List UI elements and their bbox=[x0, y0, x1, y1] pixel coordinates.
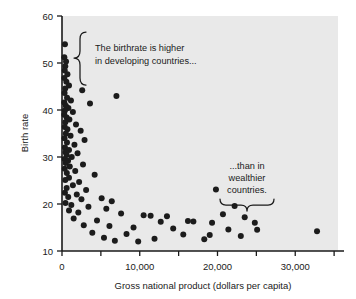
data-point bbox=[209, 220, 215, 226]
data-point bbox=[68, 133, 74, 139]
data-point bbox=[113, 93, 119, 99]
data-point bbox=[68, 202, 74, 208]
data-point bbox=[64, 139, 70, 145]
data-point bbox=[124, 231, 130, 237]
data-point bbox=[190, 218, 196, 224]
x-tick-label: 10,000 bbox=[125, 261, 154, 272]
x-axis-title: Gross national product (dollars per capi… bbox=[115, 280, 292, 291]
data-point bbox=[99, 195, 105, 201]
data-point bbox=[170, 225, 176, 231]
data-point bbox=[73, 122, 79, 128]
data-point bbox=[87, 100, 93, 106]
data-point bbox=[71, 216, 77, 222]
data-point bbox=[185, 218, 191, 224]
data-point bbox=[92, 172, 98, 178]
x-tick-label: 20,000 bbox=[203, 261, 232, 272]
data-point bbox=[82, 137, 88, 143]
data-point bbox=[75, 209, 81, 215]
data-point bbox=[74, 192, 80, 198]
data-point bbox=[71, 142, 77, 148]
data-point bbox=[164, 213, 170, 219]
data-point bbox=[106, 223, 112, 229]
data-point bbox=[62, 177, 68, 183]
y-tick-label: 20 bbox=[42, 199, 53, 210]
data-point bbox=[242, 214, 248, 220]
data-point bbox=[252, 220, 258, 226]
data-point bbox=[85, 204, 91, 210]
annotation-wealthier-line-2: wealthier bbox=[228, 173, 266, 183]
data-point bbox=[220, 211, 226, 217]
data-point bbox=[66, 208, 72, 214]
data-point bbox=[152, 236, 158, 242]
y-axis-ticks: 102030405060 bbox=[42, 11, 62, 257]
data-point bbox=[225, 226, 231, 232]
scatter-chart-figure: 102030405060 010,00020,00030,000 Birth r… bbox=[0, 0, 356, 299]
data-point bbox=[81, 222, 87, 228]
data-point bbox=[63, 200, 69, 206]
data-point bbox=[112, 238, 118, 244]
data-point bbox=[80, 162, 86, 168]
data-point bbox=[254, 227, 260, 233]
data-point bbox=[89, 230, 95, 236]
data-point bbox=[135, 239, 141, 245]
data-point bbox=[158, 219, 164, 225]
data-point bbox=[180, 232, 186, 238]
data-point bbox=[70, 182, 76, 188]
data-point bbox=[213, 186, 219, 192]
data-point bbox=[101, 235, 107, 241]
data-point bbox=[103, 206, 109, 212]
x-axis-ticks: 010,00020,00030,000 bbox=[59, 251, 334, 272]
data-point bbox=[201, 236, 207, 242]
data-point bbox=[94, 217, 100, 223]
data-point bbox=[70, 109, 76, 115]
data-point bbox=[207, 232, 213, 238]
data-point bbox=[83, 187, 89, 193]
data-point bbox=[76, 179, 82, 185]
data-point bbox=[109, 198, 115, 204]
data-point bbox=[78, 128, 84, 134]
data-point bbox=[141, 212, 147, 218]
x-tick-label: 0 bbox=[59, 261, 64, 272]
y-tick-label: 40 bbox=[42, 105, 53, 116]
annotation-wealthier-line-3: countries. bbox=[227, 185, 267, 195]
data-point bbox=[75, 150, 81, 156]
data-point bbox=[118, 210, 124, 216]
data-point bbox=[62, 41, 68, 47]
data-point bbox=[314, 228, 320, 234]
data-point bbox=[238, 233, 244, 239]
y-tick-label: 60 bbox=[42, 11, 53, 22]
y-tick-label: 10 bbox=[42, 246, 53, 257]
data-point bbox=[131, 225, 137, 231]
y-axis-title: Birth rate bbox=[19, 114, 30, 153]
annotation-developing-line-2: in developing countries... bbox=[95, 56, 197, 66]
data-point bbox=[72, 168, 78, 174]
data-point bbox=[78, 196, 84, 202]
x-tick-label: 30,000 bbox=[281, 261, 310, 272]
chart-svg: 102030405060 010,00020,00030,000 Birth r… bbox=[0, 0, 356, 299]
data-point bbox=[65, 194, 71, 200]
y-tick-label: 30 bbox=[42, 152, 53, 163]
annotation-wealthier-line-1: ...than in bbox=[229, 161, 264, 171]
data-point bbox=[232, 203, 238, 209]
y-tick-label: 50 bbox=[42, 58, 53, 69]
data-point bbox=[68, 98, 74, 104]
data-point bbox=[148, 213, 154, 219]
data-point bbox=[79, 87, 85, 93]
annotation-developing-line-1: The birthrate is higher bbox=[95, 43, 184, 53]
